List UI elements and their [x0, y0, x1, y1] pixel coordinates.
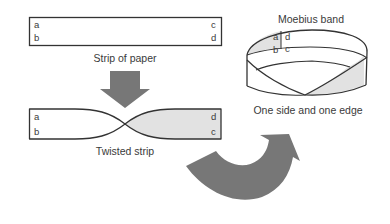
moebius-label-b: b [273, 44, 278, 55]
twisted-label-b: b [34, 126, 39, 137]
strip-label-d: d [211, 32, 216, 43]
moebius-diagram: a b c d Strip of paper a b d c Twisted s… [0, 0, 390, 224]
curved-arrow-icon [186, 134, 300, 200]
down-arrow-icon [100, 71, 150, 108]
moebius-label-d: d [285, 31, 290, 42]
twisted-strip: a b d c [30, 109, 222, 139]
diagram-canvas: a b c d Strip of paper a b d c Twisted s… [0, 0, 390, 224]
strip-label-c: c [211, 19, 216, 30]
paper-strip: a b c d [30, 18, 222, 46]
strip-caption: Strip of paper [93, 52, 157, 64]
twisted-label-d: d [211, 111, 216, 122]
twisted-label-a: a [34, 111, 40, 122]
strip-label-b: b [34, 32, 39, 43]
moebius-label-c: c [285, 43, 290, 54]
twisted-caption: Twisted strip [96, 145, 155, 157]
twisted-label-c: c [211, 126, 216, 137]
moebius-label-a: a [273, 31, 279, 42]
strip-label-a: a [34, 19, 40, 30]
moebius-title: Moebius band [278, 13, 344, 25]
moebius-band: a b d c [247, 30, 367, 95]
moebius-caption: One side and one edge [253, 104, 362, 116]
